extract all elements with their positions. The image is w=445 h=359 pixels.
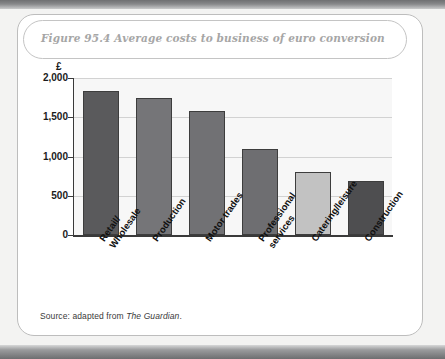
- y-axis-tick: [68, 78, 74, 79]
- y-axis-tick-label: 1,000: [22, 152, 68, 162]
- source-publication: The Guardian: [126, 311, 179, 321]
- y-axis-tick-row: 0: [18, 230, 68, 240]
- y-axis-unit-label: £: [56, 61, 62, 72]
- gridline: [74, 117, 392, 118]
- y-axis-tick-label: 500: [22, 191, 68, 201]
- page-edge-top: [0, 0, 445, 9]
- page-edge-bottom: [0, 345, 445, 359]
- y-axis-tick: [68, 196, 74, 197]
- y-axis-tick-row: 1,000: [18, 152, 68, 162]
- y-axis-tick-label: 1,500: [22, 112, 68, 122]
- gridline: [74, 157, 392, 158]
- figure-title-capsule: Figure 95.4 Average costs to business of…: [23, 20, 407, 59]
- y-axis-tick-label: 2,000: [22, 73, 68, 83]
- source-note: Source: adapted from The Guardian.: [40, 311, 182, 321]
- y-axis-tick-row: 1,500: [18, 112, 68, 122]
- figure-caption: Figure 95.4 Average costs to business of…: [41, 32, 385, 44]
- figure-card: Figure 95.4 Average costs to business of…: [17, 14, 423, 336]
- source-prefix: Source: adapted from: [40, 311, 126, 321]
- y-axis-tick-row: 2,000: [18, 73, 68, 83]
- y-axis-tick: [68, 117, 74, 118]
- y-axis-tick-row: 500: [18, 191, 68, 201]
- y-axis-tick: [68, 235, 74, 236]
- y-axis-tick: [68, 157, 74, 158]
- source-suffix: .: [179, 311, 181, 321]
- y-axis-tick-label: 0: [22, 230, 68, 240]
- gridline: [74, 78, 392, 79]
- bar-chart: £ 05001,0001,5002,000 Retail/WholesalePr…: [18, 59, 424, 337]
